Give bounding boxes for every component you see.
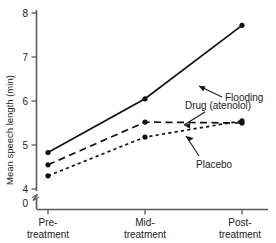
y-axis-break-icon [32, 195, 39, 201]
y-tick-label-6: 6 [22, 96, 28, 107]
chart-figure: 8 7 6 5 4 0 Pre- treatment Mid- treatmen… [0, 0, 276, 243]
data-point [239, 118, 244, 123]
data-point [239, 23, 244, 28]
x-tick-label-post-line2: treatment [219, 229, 261, 240]
x-tick-label-mid-line1: Mid- [135, 217, 154, 228]
annotation-label-drug: Drug (atenolol) [185, 100, 251, 111]
y-tick-label-5: 5 [22, 140, 28, 151]
x-tick-label-pre-line1: Pre- [39, 217, 58, 228]
y-tick-label-7: 7 [22, 52, 28, 63]
data-point [142, 96, 147, 101]
y-tick-label-8: 8 [22, 8, 28, 19]
series-line-flooding [48, 25, 242, 152]
data-point [45, 150, 50, 155]
y-origin-label: 0 [22, 198, 28, 209]
line-chart: 8 7 6 5 4 0 Pre- treatment Mid- treatmen… [0, 0, 276, 243]
x-tick-label-post-line1: Post- [228, 217, 251, 228]
x-tick-label-mid-line2: treatment [124, 229, 166, 240]
data-point [45, 173, 50, 178]
y-tick-label-4: 4 [22, 184, 28, 195]
data-point [142, 134, 147, 139]
data-point [45, 162, 50, 167]
y-axis-title: Mean speech length (min) [4, 75, 15, 185]
annotation-placebo: Placebo [186, 136, 233, 170]
x-tick-label-pre-line2: treatment [27, 229, 69, 240]
data-point [142, 120, 147, 125]
annotation-label-placebo: Placebo [196, 159, 233, 170]
